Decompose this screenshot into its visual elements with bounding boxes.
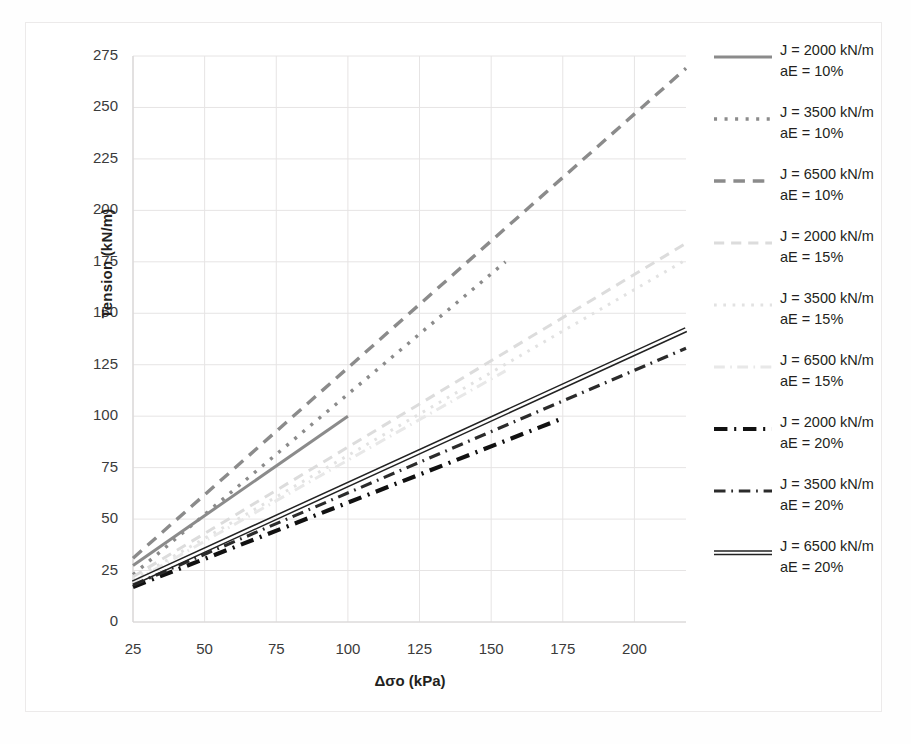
legend-label-line1: J = 3500 kN/m xyxy=(780,102,905,123)
series-line xyxy=(133,371,505,582)
legend-label-line2: aE = 10% xyxy=(780,61,905,82)
series-lines xyxy=(132,68,687,587)
legend-label-line1: J = 2000 kN/m xyxy=(780,226,905,247)
legend-label-line2: aE = 20% xyxy=(780,433,905,454)
legend-line-swatch xyxy=(712,173,774,185)
legend-label-line1: J = 2000 kN/m xyxy=(780,412,905,433)
x-tick-label: 125 xyxy=(397,640,443,657)
legend-label-line1: J = 6500 kN/m xyxy=(780,164,905,185)
legend-label: J = 2000 kN/maE = 15% xyxy=(780,226,905,268)
legend-label-line1: J = 2000 kN/m xyxy=(780,40,905,61)
legend-label-line2: aE = 15% xyxy=(780,309,905,330)
legend-label: J = 2000 kN/maE = 20% xyxy=(780,412,905,454)
legend-label: J = 3500 kN/maE = 15% xyxy=(780,288,905,330)
legend-line-swatch xyxy=(712,49,774,61)
legend-label-line2: aE = 20% xyxy=(780,495,905,516)
legend-label-line1: J = 3500 kN/m xyxy=(780,474,905,495)
legend-label: J = 6500 kN/maE = 20% xyxy=(780,536,905,578)
legend-line-swatch xyxy=(712,111,774,123)
legend-line-swatch xyxy=(712,359,774,371)
x-tick-label: 75 xyxy=(253,640,299,657)
y-tick-label: 50 xyxy=(72,509,118,526)
y-tick-label: 0 xyxy=(72,612,118,629)
legend-item[interactable]: J = 3500 kN/maE = 10% xyxy=(712,102,902,164)
legend-label-line1: J = 6500 kN/m xyxy=(780,536,905,557)
legend-item[interactable]: J = 3500 kN/maE = 15% xyxy=(712,288,902,350)
legend-label: J = 6500 kN/maE = 10% xyxy=(780,164,905,206)
legend-label: J = 3500 kN/maE = 10% xyxy=(780,102,905,144)
legend-line-swatch xyxy=(712,297,774,309)
chart-root: 0255075100125150175200225250275 25507510… xyxy=(0,0,911,744)
legend-label-line2: aE = 20% xyxy=(780,557,905,578)
legend-item[interactable]: J = 6500 kN/maE = 15% xyxy=(712,350,902,412)
y-tick-label: 100 xyxy=(72,406,118,423)
legend-label: J = 6500 kN/maE = 15% xyxy=(780,350,905,392)
legend-item[interactable]: J = 3500 kN/maE = 20% xyxy=(712,474,902,536)
legend-line-swatch xyxy=(712,483,774,495)
legend-item[interactable]: J = 2000 kN/maE = 20% xyxy=(712,412,902,474)
x-tick-label: 200 xyxy=(611,640,657,657)
legend-item[interactable]: J = 2000 kN/maE = 10% xyxy=(712,40,902,102)
y-tick-label: 275 xyxy=(72,46,118,63)
x-tick-label: 175 xyxy=(540,640,586,657)
legend-label-line2: aE = 10% xyxy=(780,185,905,206)
legend-label-line2: aE = 15% xyxy=(780,247,905,268)
legend-label-line2: aE = 10% xyxy=(780,123,905,144)
y-tick-label: 25 xyxy=(72,561,118,578)
legend-label-line2: aE = 15% xyxy=(780,371,905,392)
legend-label-line1: J = 3500 kN/m xyxy=(780,288,905,309)
x-tick-label: 50 xyxy=(182,640,228,657)
legend-line-swatch xyxy=(712,235,774,247)
x-axis-title: Δσo (kPa) xyxy=(230,672,590,689)
legend-item[interactable]: J = 6500 kN/maE = 20% xyxy=(712,536,902,598)
y-tick-label: 250 xyxy=(72,97,118,114)
y-tick-label: 75 xyxy=(72,458,118,475)
series-line xyxy=(132,328,687,585)
legend-label-line1: J = 6500 kN/m xyxy=(780,350,905,371)
legend-label: J = 2000 kN/maE = 10% xyxy=(780,40,905,82)
series-line xyxy=(133,243,686,576)
legend-line-swatch xyxy=(712,545,774,557)
legend-label: J = 3500 kN/maE = 20% xyxy=(780,474,905,516)
y-axis-title: Tension (kN/m) xyxy=(98,154,115,374)
x-tick-label: 150 xyxy=(468,640,514,657)
chart-legend: J = 2000 kN/maE = 10%J = 3500 kN/maE = 1… xyxy=(712,40,902,598)
legend-line-swatch xyxy=(712,421,774,433)
legend-item[interactable]: J = 6500 kN/maE = 10% xyxy=(712,164,902,226)
series-line xyxy=(133,260,686,580)
x-tick-label: 100 xyxy=(325,640,371,657)
x-tick-label: 25 xyxy=(110,640,156,657)
series-line xyxy=(133,348,686,585)
legend-item[interactable]: J = 2000 kN/maE = 15% xyxy=(712,226,902,288)
